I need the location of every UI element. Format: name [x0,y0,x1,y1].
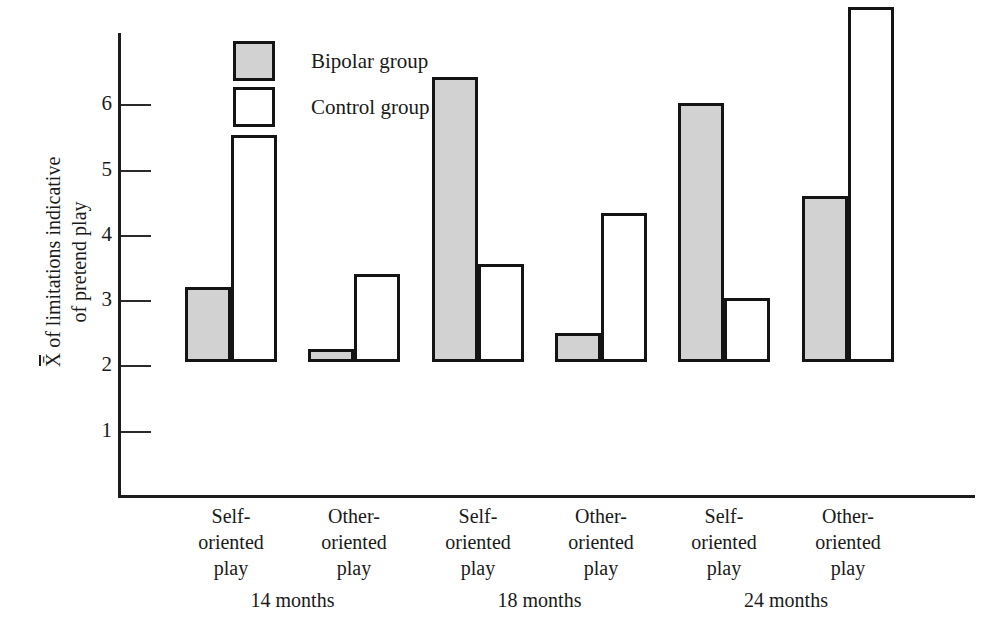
x-group-label-18-months: 18 months [440,590,640,610]
bar-24-months-self-oriented-control [724,298,770,362]
x-category-label-4-line-1: oriented [659,529,789,555]
x-category-label-3-line-2: play [536,555,666,581]
x-category-label-0-line-0: Self- [166,503,296,529]
x-category-label-3-line-1: oriented [536,529,666,555]
x-category-label-3: Other-orientedplay [536,503,666,581]
x-category-label-0-line-1: oriented [166,529,296,555]
x-group-label-14-months: 14 months [193,590,393,610]
x-category-label-0-line-2: play [166,555,296,581]
bar-18-months-self-oriented-bipolar [432,77,478,362]
x-category-label-5-line-1: oriented [783,529,913,555]
bar-14-months-other-oriented-control [354,274,400,362]
x-category-label-3-line-0: Other- [536,503,666,529]
bar-chart: X̄ of limitations indicative of pretend … [0,0,1005,632]
x-category-label-1-line-1: oriented [289,529,419,555]
bar-24-months-self-oriented-bipolar [678,103,724,362]
x-category-label-2-line-2: play [413,555,543,581]
bar-14-months-other-oriented-bipolar [308,349,354,362]
x-category-label-2: Self-orientedplay [413,503,543,581]
x-category-label-1-line-2: play [289,555,419,581]
bar-18-months-other-oriented-bipolar [555,333,601,362]
x-category-label-2-line-0: Self- [413,503,543,529]
x-category-label-4-line-2: play [659,555,789,581]
x-category-label-0: Self-orientedplay [166,503,296,581]
bar-14-months-self-oriented-bipolar [185,287,231,362]
bar-24-months-other-oriented-control [848,7,894,362]
bar-24-months-other-oriented-bipolar [802,196,848,363]
x-category-label-5-line-0: Other- [783,503,913,529]
bar-14-months-self-oriented-control [231,135,277,362]
x-category-label-4: Self-orientedplay [659,503,789,581]
x-group-label-24-months: 24 months [686,590,886,610]
x-category-label-2-line-1: oriented [413,529,543,555]
x-category-label-4-line-0: Self- [659,503,789,529]
bar-18-months-self-oriented-control [478,264,524,362]
x-category-label-5-line-2: play [783,555,913,581]
x-category-label-5: Other-orientedplay [783,503,913,581]
bar-18-months-other-oriented-control [601,213,647,362]
x-category-label-1-line-0: Other- [289,503,419,529]
x-category-label-1: Other-orientedplay [289,503,419,581]
plot-area [0,0,1005,497]
